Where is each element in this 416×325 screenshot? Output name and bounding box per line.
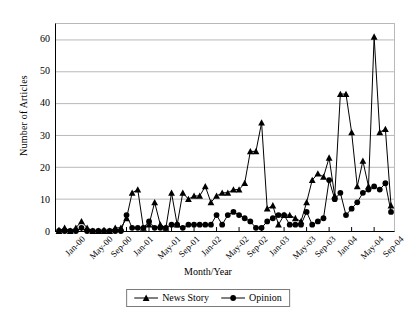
data-point-marker: [225, 212, 231, 218]
legend-label: News Story: [162, 292, 209, 303]
y-tick-label: 20: [20, 163, 50, 173]
data-point-marker: [78, 218, 85, 224]
data-point-marker: [180, 225, 186, 231]
data-point-marker: [258, 119, 265, 125]
chart-figure: Number of Articles 0102030405060 Jan-00M…: [0, 0, 416, 325]
data-point-marker: [219, 222, 225, 228]
data-point-marker: [135, 225, 141, 231]
data-point-marker: [236, 212, 242, 218]
data-point-marker: [337, 190, 343, 196]
data-point-marker: [124, 212, 130, 218]
data-point-marker: [231, 209, 237, 215]
x-tick-label: Jan-00: [63, 234, 87, 258]
data-point-marker: [202, 222, 208, 228]
data-point-marker: [202, 183, 209, 189]
x-tick-label: May-04: [359, 234, 386, 261]
data-point-marker: [242, 215, 248, 221]
data-point-marker: [349, 206, 355, 212]
y-tick-label: 10: [20, 195, 50, 205]
data-point-marker: [186, 222, 192, 228]
legend-marker-triangle-icon: [134, 293, 158, 303]
data-point-marker: [269, 202, 276, 208]
data-point-marker: [326, 154, 333, 160]
data-point-marker: [163, 225, 169, 231]
data-point-marker: [270, 215, 276, 221]
data-point-marker: [129, 225, 135, 231]
data-point-marker: [332, 196, 338, 202]
y-tick-label: 30: [20, 131, 50, 141]
y-tick-label: 0: [20, 227, 50, 237]
data-point-marker: [259, 225, 265, 231]
data-point-marker: [140, 225, 146, 231]
data-point-marker: [360, 190, 366, 196]
data-point-marker: [314, 170, 321, 176]
data-point-marker: [276, 212, 282, 218]
data-point-marker: [168, 189, 175, 195]
data-point-marker: [179, 189, 186, 195]
data-point-marker: [354, 183, 361, 189]
data-point-marker: [359, 158, 366, 164]
data-point-marker: [281, 212, 287, 218]
data-point-marker: [292, 222, 298, 228]
data-point-marker: [157, 225, 163, 231]
y-tick-label: 60: [20, 34, 50, 44]
data-point-marker: [253, 225, 259, 231]
data-point-marker: [382, 126, 389, 132]
data-point-marker: [348, 129, 355, 135]
data-point-marker: [343, 212, 349, 218]
data-point-marker: [371, 33, 378, 39]
data-point-marker: [304, 209, 310, 215]
data-point-marker: [191, 222, 197, 228]
data-point-marker: [388, 202, 395, 208]
data-point-marker: [208, 222, 214, 228]
data-point-marker: [298, 222, 304, 228]
x-tick-label: Sep-03: [313, 234, 338, 259]
x-tick-label: May-02: [223, 234, 250, 261]
chart-canvas: [56, 24, 394, 231]
data-point-marker: [247, 219, 253, 225]
data-point-marker: [197, 222, 203, 228]
x-tick-label: Jan-04: [335, 234, 359, 258]
data-point-marker: [309, 222, 315, 228]
data-point-marker: [354, 199, 360, 205]
chart-legend: News StoryOpinion: [126, 289, 290, 307]
legend-item: News Story: [134, 292, 209, 303]
data-point-marker: [376, 129, 383, 135]
legend-label: Opinion: [249, 292, 282, 303]
legend-marker-circle-icon: [221, 293, 245, 303]
data-point-marker: [326, 177, 332, 183]
data-point-marker: [79, 225, 85, 231]
data-point-marker: [214, 212, 220, 218]
data-point-marker: [321, 215, 327, 221]
data-point-marker: [366, 187, 372, 193]
x-tick-label: Sep-01: [177, 234, 202, 259]
data-point-marker: [129, 189, 136, 195]
data-point-marker: [241, 180, 248, 186]
data-point-marker: [371, 184, 377, 190]
x-tick-label: Jan-01: [131, 234, 155, 258]
legend-item: Opinion: [221, 292, 282, 303]
data-point-marker: [388, 209, 394, 215]
x-tick-label: May-03: [291, 234, 318, 261]
data-point-marker: [152, 225, 158, 231]
data-point-marker: [169, 222, 175, 228]
data-point-marker: [303, 199, 310, 205]
data-point-marker: [275, 221, 282, 227]
data-point-marker: [377, 187, 383, 193]
y-tick-label: 50: [20, 66, 50, 76]
y-tick-label: 40: [20, 98, 50, 108]
data-point-marker: [264, 205, 271, 211]
x-tick-label: May-01: [155, 234, 182, 261]
data-point-marker: [382, 180, 388, 186]
x-tick-label: May-00: [87, 234, 114, 261]
series-line-opinion: [59, 180, 391, 231]
data-point-marker: [174, 222, 180, 228]
data-point-marker: [151, 199, 158, 205]
data-point-marker: [146, 219, 152, 225]
data-point-marker: [315, 219, 321, 225]
x-tick-label: Sep-04: [380, 234, 405, 259]
x-tick-label: Sep-02: [245, 234, 270, 259]
x-axis-title: Month/Year: [0, 266, 416, 277]
plot-area: [55, 23, 395, 232]
data-point-marker: [134, 186, 141, 192]
